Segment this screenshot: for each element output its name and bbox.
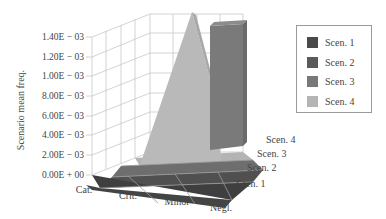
legend-label: Scen. 2 xyxy=(325,57,354,68)
depth-tick: Scen. 4 xyxy=(266,134,295,145)
series-scen3-column xyxy=(210,20,247,150)
y-tick: 1.40E − 03 xyxy=(42,32,84,42)
y-tick: 0.00E + 00 xyxy=(42,170,84,180)
y-tick: 1.20E − 03 xyxy=(42,52,84,62)
y-tick: 8.00E − 03 xyxy=(42,91,84,101)
legend-label: Scen. 1 xyxy=(325,37,354,48)
legend-item-scen3: Scen. 3 xyxy=(307,72,371,92)
x-tick: Crit. xyxy=(119,190,137,201)
legend-item-scen2: Scen. 2 xyxy=(307,53,371,73)
y-tick: 2.00E − 03 xyxy=(42,150,84,160)
legend-swatch xyxy=(307,37,318,48)
legend-swatch xyxy=(307,96,318,107)
x-tick: Minor xyxy=(165,196,191,207)
legend-item-scen4: Scen. 4 xyxy=(307,92,371,112)
depth-tick: Scen. 1 xyxy=(236,178,265,189)
legend-item-scen1: Scen. 1 xyxy=(307,33,371,53)
x-tick: Cat. xyxy=(76,184,92,195)
y-tick: 6.00E − 03 xyxy=(42,111,84,121)
x-tick: Negl. xyxy=(210,202,232,213)
legend: Scen. 1 Scen. 2 Scen. 3 Scen. 4 xyxy=(296,25,372,113)
y-tick: 1.00E − 03 xyxy=(42,71,84,81)
y-axis-ticks: 0.00E + 00 2.00E − 03 4.00E − 03 6.00E −… xyxy=(42,32,84,180)
depth-tick: Scen. 2 xyxy=(247,162,276,173)
legend-swatch xyxy=(307,76,318,87)
depth-tick: Scen. 3 xyxy=(257,148,286,159)
legend-label: Scen. 3 xyxy=(325,76,354,87)
y-tick: 4.00E − 03 xyxy=(42,130,84,140)
y-axis-title: Scenario mean freq. xyxy=(15,70,26,150)
legend-swatch xyxy=(307,57,318,68)
legend-label: Scen. 4 xyxy=(325,96,354,107)
series-scen4-area xyxy=(140,12,222,165)
